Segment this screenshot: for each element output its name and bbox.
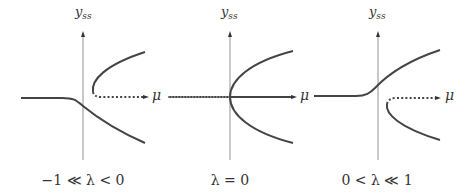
panel-2-x-label: μ xyxy=(300,87,309,103)
bifurcation-diagrams xyxy=(0,0,470,195)
panel-1-plot xyxy=(21,31,149,160)
panel-1-y-arrow-icon xyxy=(81,31,85,37)
panel-2-y-label: yss xyxy=(221,4,238,21)
panel-1-unstable-branch xyxy=(93,92,145,97)
panel-1-caption: −1 ≪ λ < 0 xyxy=(13,172,153,188)
panel-1-upper-stable-branch xyxy=(93,52,145,92)
panel-3-lower-stable-branch xyxy=(387,104,440,140)
panel-3-unstable-branch xyxy=(387,98,436,104)
panel-2-y-arrow-icon xyxy=(228,31,232,37)
panel-3-caption: 0 < λ ≪ 1 xyxy=(307,172,447,188)
panel-1-y-label: yss xyxy=(75,4,92,21)
panel-3-y-label: yss xyxy=(369,4,386,21)
panel-3-plot xyxy=(314,31,441,160)
panel-2-pitchfork-upper xyxy=(230,51,293,97)
panel-3-x-arrow-icon xyxy=(435,96,441,100)
panel-2-caption: λ = 0 xyxy=(160,172,300,188)
panel-2-plot xyxy=(168,31,297,160)
panel-1-x-label: μ xyxy=(152,87,161,103)
panel-1-x-arrow-icon xyxy=(143,95,149,99)
panel-3-y-arrow-icon xyxy=(376,31,380,37)
panel-3-upper-stable-branch xyxy=(314,50,440,96)
panel-3-x-label: μ xyxy=(445,87,454,103)
panel-2-pitchfork-lower xyxy=(230,97,293,143)
panel-2-x-arrow-icon xyxy=(291,95,297,99)
